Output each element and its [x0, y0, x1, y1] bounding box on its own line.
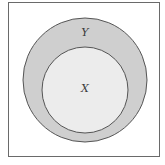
- venn-diagram: Y X: [0, 0, 165, 165]
- set-x-label: X: [80, 82, 90, 95]
